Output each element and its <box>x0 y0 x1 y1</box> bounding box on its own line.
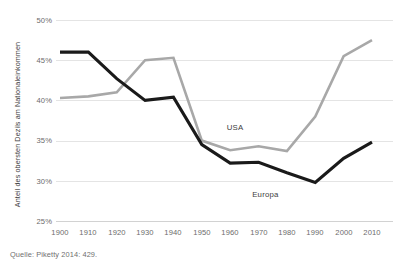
line-series-europa <box>60 52 372 182</box>
chart-container: Anteil des obersten Dezils am Nationalei… <box>0 0 401 270</box>
series-label-europa: Europa <box>252 190 278 199</box>
line-series-usa <box>60 40 372 151</box>
series-label-usa: USA <box>227 123 244 132</box>
x-tick-label: 2010 <box>352 228 392 237</box>
source-note: Quelle: Piketty 2014: 429. <box>10 250 97 259</box>
